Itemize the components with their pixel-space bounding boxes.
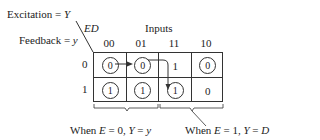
cell-0-01: 0 (127, 53, 160, 78)
circled-value: 0 (199, 57, 216, 74)
cell-0-00: 0 (94, 53, 127, 78)
text: When (70, 124, 99, 136)
var-e: E (214, 124, 221, 136)
cell-1-01: 1 (127, 78, 160, 103)
text: When (185, 124, 214, 136)
circled-value: 0 (102, 57, 119, 74)
circled-value: 1 (102, 82, 119, 99)
cell-0-10: 0 (192, 53, 225, 78)
karnaugh-map: 0 0 1 0 1 1 1 0 (93, 52, 223, 102)
bracket-right (160, 104, 223, 111)
bracket-left (94, 104, 158, 111)
circled-value: 1 (167, 82, 184, 99)
circled-value: 1 (134, 82, 151, 99)
corner-diagonal (76, 21, 93, 52)
cell-1-10: 0 (192, 78, 225, 103)
annotation-e0: When E = 0, Y = y (70, 124, 151, 136)
cell-1-11: 1 (159, 78, 192, 103)
value: 0 (205, 85, 211, 97)
annotation-e1: When E = 1, Y = D (185, 124, 269, 136)
var-val: y (146, 124, 151, 136)
circled-value: 0 (134, 57, 151, 74)
text: = 0, (106, 124, 129, 136)
text: = (135, 124, 147, 136)
text: = 1, (221, 124, 244, 136)
cell-0-11: 1 (159, 53, 192, 78)
cell-1-00: 1 (94, 78, 127, 103)
var-e: E (99, 124, 106, 136)
var-val: D (261, 124, 269, 136)
value: 1 (173, 60, 179, 72)
text: = (250, 124, 262, 136)
